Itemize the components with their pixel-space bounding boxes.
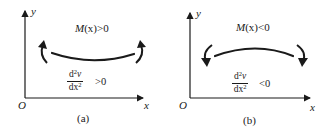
second-derivative-fraction: d2v dx2 [232, 72, 248, 94]
left-arrowhead-icon [38, 40, 47, 49]
origin-label: O [179, 100, 187, 111]
left-arrowhead-icon [201, 58, 211, 67]
y-axis-label: y [31, 6, 36, 17]
x-axis-label: x [144, 100, 149, 111]
right-arrowhead-icon [298, 58, 308, 67]
x-axis-label: x [310, 102, 315, 113]
y-axis-label: y [196, 8, 201, 19]
beam-curve-concave-up [52, 53, 134, 60]
origin-label: O [18, 100, 26, 111]
derivative-condition: <0 [259, 78, 270, 89]
panel-caption: (a) [77, 112, 89, 124]
panel-a-positive-moment: y O x M(x)>0 d2v dx2 >0 (a) [0, 0, 165, 135]
second-derivative-fraction: d2v dx2 [67, 70, 83, 92]
moment-condition: M(x)>0 [75, 23, 109, 34]
panel-caption: (b) [243, 114, 256, 126]
beam-curve-concave-down [215, 49, 293, 57]
panel-b-negative-moment: y O x M(x)<0 d2v dx2 <0 (b) [162, 0, 327, 135]
moment-condition: M(x)<0 [236, 22, 270, 33]
right-arrowhead-icon [137, 40, 146, 48]
derivative-condition: >0 [95, 76, 106, 87]
